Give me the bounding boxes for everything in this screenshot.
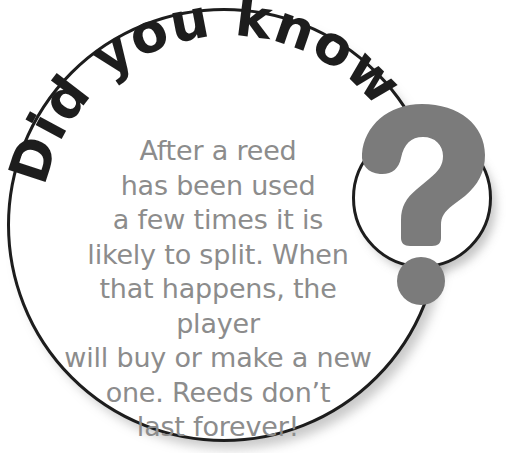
question-mark-icon [344,86,504,286]
question-badge [352,128,492,268]
callout-body-text: After a reed has been used a few times i… [58,134,378,445]
did-you-know-callout: Did you know After a reed has been used … [0,0,509,453]
question-mark-dot [397,257,445,305]
